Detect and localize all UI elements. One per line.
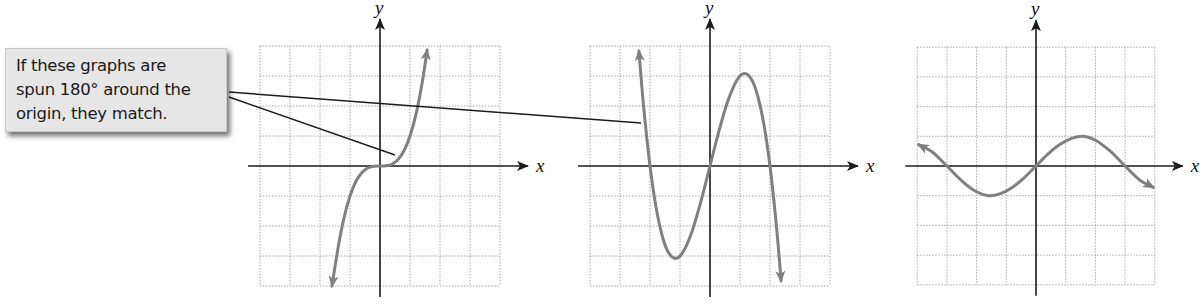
callout-line-1: If these graphs are [16,54,218,78]
x-axis-label: x [535,155,545,176]
graph-cubic-three-roots: xy [578,0,875,297]
callout-line-3: origin, they match. [16,102,218,126]
y-axis-label: y [373,0,384,18]
graphs-canvas: xy xy xy [0,0,1202,304]
callout-box: If these graphs are spun 180° around the… [5,48,227,132]
y-axis-label: y [1029,0,1040,19]
callout-line-2: spun 180° around the [16,78,218,102]
x-axis-label: x [1190,155,1200,176]
graph-wave-odd: xy [905,0,1200,296]
leader-lines [229,92,641,155]
x-axis-label: x [865,155,875,176]
figure: xy xy xy If these graphs are spun 180° a… [0,0,1202,304]
y-axis-label: y [703,0,714,18]
graph-cubic-x3: xy [248,0,545,297]
